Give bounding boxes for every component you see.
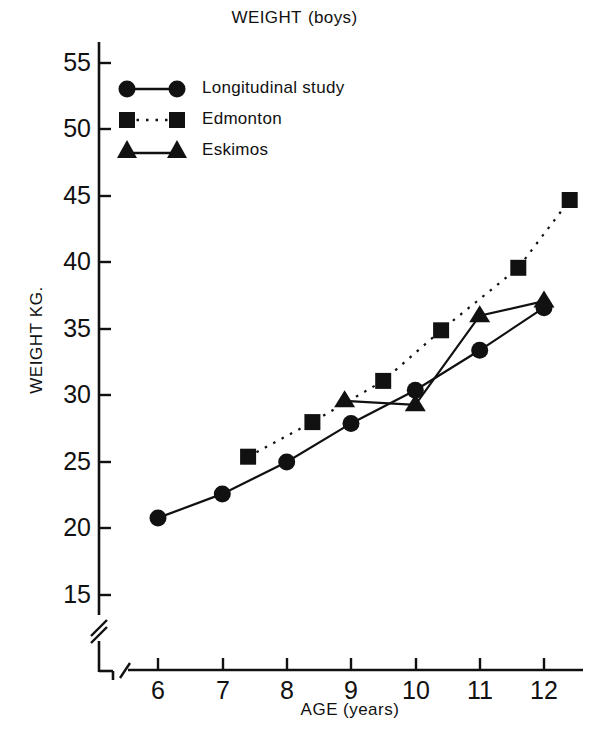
data-point-circle-icon xyxy=(471,342,488,359)
y-axis-ticks xyxy=(99,63,111,595)
chart-legend: Longitudinal study Edmonton Eskimos xyxy=(116,74,446,167)
x-axis-title-sub: (years) xyxy=(343,700,399,719)
series-line xyxy=(158,308,544,518)
y-tick-label: 50 xyxy=(29,116,91,141)
data-point-triangle-icon xyxy=(534,291,555,308)
legend-sample-square-icon xyxy=(116,105,188,136)
y-tick-label: 20 xyxy=(29,515,91,540)
data-point-circle-icon xyxy=(278,454,295,471)
y-tick-label: 45 xyxy=(29,183,91,208)
series-eskimos xyxy=(334,291,554,412)
data-point-square-icon xyxy=(375,373,391,389)
x-axis-title-main: AGE xyxy=(301,700,338,719)
y-tick-label: 55 xyxy=(29,50,91,75)
y-axis-title: WEIGHT KG. xyxy=(27,240,47,440)
data-series-layer xyxy=(150,192,578,526)
legend-label: Eskimos xyxy=(202,140,268,160)
series-line xyxy=(248,200,570,457)
data-point-circle-icon xyxy=(214,485,231,502)
data-point-triangle-icon xyxy=(334,390,355,407)
data-point-circle-icon xyxy=(150,509,167,526)
data-point-square-icon xyxy=(562,192,578,208)
data-point-circle-icon xyxy=(343,415,360,432)
legend-sample-circle-icon xyxy=(116,74,188,105)
y-tick-label: 25 xyxy=(29,449,91,474)
data-point-square-icon xyxy=(510,260,526,276)
legend-label: Edmonton xyxy=(202,109,282,129)
series-line xyxy=(345,301,544,405)
legend-item-edmonton[interactable]: Edmonton xyxy=(116,105,446,136)
data-point-triangle-icon xyxy=(405,394,426,411)
legend-item-longitudinal-study[interactable]: Longitudinal study xyxy=(116,74,446,105)
x-axis-title: AGE(years) xyxy=(160,700,540,720)
legend-item-eskimos[interactable]: Eskimos xyxy=(116,136,446,167)
legend-sample-triangle-icon xyxy=(116,136,188,167)
x-axis-ticks xyxy=(158,658,544,670)
chart-figure: WEIGHT(boys) xyxy=(0,0,589,733)
data-point-square-icon xyxy=(304,414,320,430)
data-point-square-icon xyxy=(433,322,449,338)
y-tick-label: 15 xyxy=(29,582,91,607)
legend-label: Longitudinal study xyxy=(202,78,344,98)
series-longitudinal-study xyxy=(150,299,553,526)
data-point-square-icon xyxy=(240,449,256,465)
series-edmonton xyxy=(240,192,578,465)
